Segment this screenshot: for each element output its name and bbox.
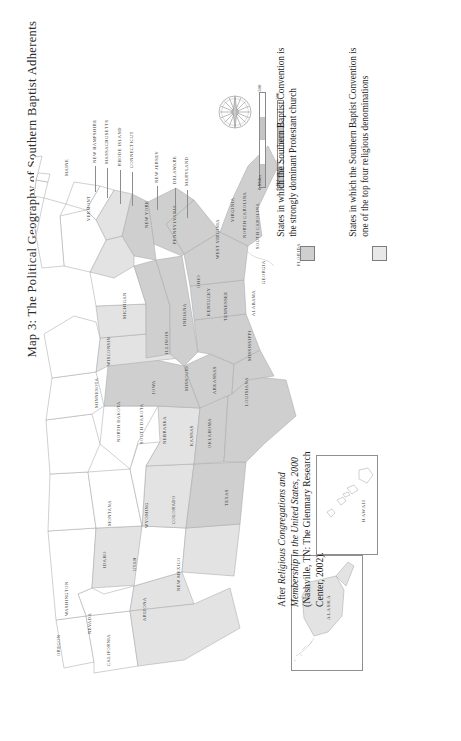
state-label-nebraska: Nebraska: [162, 416, 167, 444]
scale-label-miles-max: 500: [257, 85, 262, 93]
state-label-vermont: Vermont: [86, 195, 91, 221]
state-label-illinois: Illinois: [164, 331, 169, 354]
state-label-new-jersey: New Jersey: [154, 151, 159, 183]
state-label-mississippi: Mississippi: [247, 331, 252, 361]
state-label-south-carolina: South Carolina: [255, 203, 260, 249]
state-michigan: [44, 316, 100, 378]
state-label-maine: Maine: [64, 159, 69, 176]
hawaii-kauai: [327, 509, 335, 517]
state-label-louisiana: Louisiana: [244, 377, 249, 406]
state-label-wyoming: Wyoming: [144, 502, 149, 528]
state-label-maryland: Maryland: [184, 156, 189, 186]
state-label-texas: Texas: [224, 489, 229, 506]
source-note: After Religious Congregations and Member…: [276, 427, 326, 607]
leader-line-rhode-island: [121, 170, 122, 204]
alaska-islands: [294, 654, 302, 661]
state-connecticut: [34, 180, 48, 198]
state-label-oklahoma: Oklahoma: [207, 418, 212, 448]
leader-line-massachusetts: [108, 168, 109, 198]
state-label-idaho: Idaho: [102, 551, 107, 568]
state-label-missouri: Missouri: [184, 366, 189, 391]
leader-line-new-jersey: [158, 186, 159, 210]
state-label-tennessee: Tennessee: [223, 291, 228, 321]
legend-swatch-strongly-dominant: [300, 246, 315, 261]
hawaii-molokai: [343, 492, 350, 497]
leader-line-connecticut: [133, 172, 134, 206]
state-label-michigan: Michigan: [122, 292, 127, 319]
hawaii-island: [359, 468, 373, 483]
state-minnesota: [46, 414, 100, 474]
state-label-alabama: Alabama: [251, 290, 256, 316]
state-label-new-mexico: New Mexico: [176, 557, 181, 591]
leader-line-delaware: [176, 188, 177, 214]
state-label-wisconsin: Wisconsin: [106, 337, 111, 366]
state-label-ohio: Ohio: [196, 275, 201, 288]
state-label-pennsylvania: Pennsylvania: [172, 204, 177, 244]
state-label-kansas: Kansas: [189, 425, 194, 446]
legend-swatch-top-four: [372, 246, 387, 261]
source-suffix: (Nashville, TN: The Glenmary Research Ce…: [301, 452, 325, 608]
state-label-massachusetts: Massachusetts: [104, 120, 109, 164]
state-label-kentucky: Kentucky: [206, 287, 211, 316]
state-label-delaware: Delaware: [172, 156, 177, 184]
scale-bar-miles: [259, 92, 266, 188]
state-label-rhode-island: Rhode Island: [117, 127, 122, 166]
state-label-arizona: Arizona: [142, 597, 147, 621]
state-label-virginia: Virginia: [230, 198, 235, 222]
legend-label-top-four: States in which the Southern Baptist Con…: [347, 37, 372, 237]
state-label-arkansas: Arkansas: [212, 366, 217, 394]
state-label-indiana: Indiana: [182, 303, 187, 326]
scale-label-miles-zero: 0 Miles: [257, 175, 262, 190]
map-page: Map 3: The Political Geography of Southe…: [0, 0, 461, 741]
state-label-minnesota: Minnesota: [94, 378, 99, 408]
state-north-dakota: [48, 472, 96, 531]
state-new-mexico: [186, 462, 246, 528]
state-colorado: [142, 464, 194, 528]
aleutian-chain: [296, 638, 314, 656]
source-prefix: After: [276, 584, 287, 607]
state-label-montana: Montana: [107, 500, 112, 526]
inset-label-alaska: Alaska: [326, 595, 331, 620]
leader-line-maryland: [188, 190, 189, 218]
inset-label-hawaii: Hawaii: [361, 499, 366, 522]
leader-line-new-hampshire: [96, 166, 97, 192]
state-label-connecticut: Connecticut: [129, 131, 134, 168]
state-indiana: [96, 304, 146, 338]
state-label-georgia: Georgia: [261, 260, 266, 284]
state-vermont: [34, 208, 36, 236]
state-label-west-virginia: West Virginia: [215, 219, 220, 259]
compass-rose: [216, 93, 254, 131]
state-label-california: California: [106, 634, 111, 666]
state-label-colorado: Colorado: [171, 495, 176, 524]
state-arizona: [182, 524, 240, 576]
legend-label-strongly-dominant: States in which the Southern Baptist Con…: [275, 37, 300, 237]
state-label-new-york: New York: [144, 200, 149, 228]
state-new-york: [36, 198, 66, 268]
state-label-south-dakota: South Dakota: [139, 403, 144, 444]
state-label-new-hampshire: New Hampshire: [92, 119, 97, 163]
state-label-nevada: Nevada: [87, 613, 92, 634]
state-label-oregon: Oregon: [56, 634, 61, 656]
state-label-north-dakota: North Dakota: [116, 401, 121, 442]
hawaii-oahu: [337, 497, 346, 505]
state-label-utah: Utah: [132, 557, 137, 571]
state-label-iowa: Iowa: [151, 380, 156, 394]
legend-item-1: States in which the Southern Baptist Con…: [372, 46, 444, 261]
state-label-washington: Washington: [64, 581, 69, 616]
state-oregon: [86, 611, 138, 673]
legend: States in which the Southern Baptist Con…: [300, 46, 450, 261]
state-label-north-carolina: North Carolina: [242, 192, 247, 238]
